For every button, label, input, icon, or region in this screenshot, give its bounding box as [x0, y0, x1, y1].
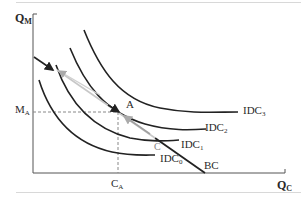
point-c-label: C [154, 141, 161, 152]
m-a-label: MA [15, 103, 30, 117]
x-axis-label: QC [277, 178, 292, 193]
adjustment-path [57, 70, 155, 138]
curve-idc3 [84, 30, 238, 112]
c-a-label: CA [111, 177, 123, 191]
y-axis-label: QM [15, 11, 32, 26]
idc1-label: IDC1 [181, 138, 204, 152]
idc2-label: IDC2 [205, 121, 228, 135]
indifference-diagram: QM QC MA CA A C BC IDC3 IDC2 IDC1 IDC0 [0, 0, 305, 200]
curve-idc0 [39, 80, 155, 155]
guide-lines [33, 112, 118, 173]
point-a-label: A [126, 98, 134, 110]
idc3-label: IDC3 [243, 104, 266, 118]
budget-label: BC [204, 159, 219, 171]
indifference-curves [39, 30, 238, 155]
